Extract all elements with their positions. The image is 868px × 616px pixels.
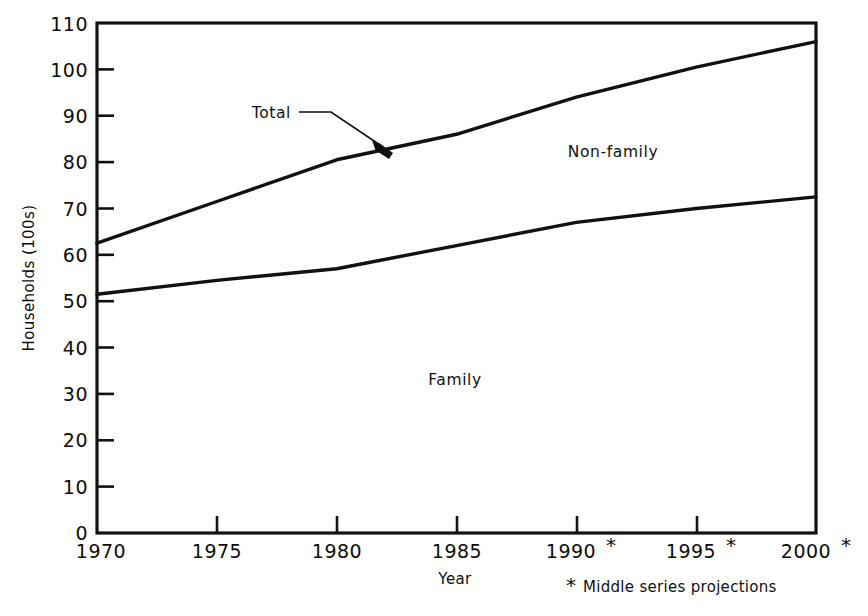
x-tick-label: 2000 bbox=[781, 540, 831, 562]
y-tick-label: 50 bbox=[63, 290, 88, 312]
y-tick-label: 40 bbox=[63, 337, 88, 359]
chart-figure: 110 100 90 80 70 60 50 40 30 20 10 0 Hou… bbox=[0, 0, 868, 616]
x-axis-tick-labels: 1970 1975 1980 1985 1990 * 1995 * 2000 * bbox=[76, 533, 851, 562]
x-tick-label: 1985 bbox=[432, 540, 482, 562]
y-tick-label: 70 bbox=[63, 198, 88, 220]
family-region-label: Family bbox=[428, 371, 481, 389]
x-axis-ticks bbox=[217, 516, 697, 533]
projection-star: * bbox=[726, 533, 736, 557]
y-axis-title: Households (100s) bbox=[20, 205, 38, 352]
series-line-family bbox=[97, 197, 816, 294]
total-label: Total bbox=[251, 104, 291, 122]
y-axis-ticks bbox=[97, 69, 114, 486]
projection-star: * bbox=[606, 533, 616, 557]
footnote-star: * bbox=[566, 573, 576, 597]
footnote-text: Middle series projections bbox=[583, 578, 777, 596]
y-tick-label: 10 bbox=[63, 476, 88, 498]
projection-star: * bbox=[841, 533, 851, 557]
footnote: * Middle series projections bbox=[566, 573, 777, 597]
x-tick-label: 1990 bbox=[546, 540, 596, 562]
series-line-total bbox=[97, 42, 816, 244]
arrow-tip-blob bbox=[375, 143, 393, 159]
y-tick-label: 30 bbox=[63, 383, 88, 405]
x-tick-label: 1980 bbox=[312, 540, 362, 562]
x-tick-label: 1995 bbox=[666, 540, 716, 562]
y-axis-tick-labels: 110 100 90 80 70 60 50 40 30 20 10 0 bbox=[50, 13, 88, 544]
y-tick-label: 90 bbox=[63, 105, 88, 127]
x-tick-label: 1975 bbox=[192, 540, 242, 562]
y-tick-label: 60 bbox=[63, 244, 88, 266]
households-line-chart: 110 100 90 80 70 60 50 40 30 20 10 0 Hou… bbox=[0, 0, 868, 616]
non-family-region-label: Non-family bbox=[568, 143, 658, 161]
y-tick-label: 110 bbox=[50, 13, 88, 35]
x-tick-label: 1970 bbox=[76, 540, 126, 562]
y-tick-label: 20 bbox=[63, 429, 88, 451]
x-axis-title: Year bbox=[437, 570, 472, 588]
plot-frame bbox=[97, 23, 816, 533]
y-tick-label: 80 bbox=[63, 151, 88, 173]
y-tick-label: 100 bbox=[50, 59, 88, 81]
